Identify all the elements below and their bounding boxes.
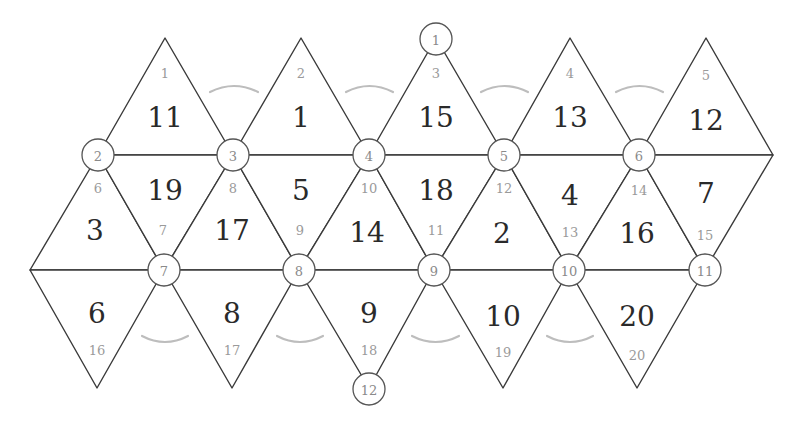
- glue-arc: [346, 86, 393, 92]
- vertex-3: 3: [217, 139, 249, 171]
- face-value-label: 12: [688, 104, 724, 137]
- vertex-8: 8: [283, 254, 315, 286]
- glue-arc: [616, 86, 663, 92]
- vertex-label: 9: [430, 264, 438, 279]
- face-value-label: 17: [214, 214, 250, 247]
- glue-arc: [277, 336, 323, 342]
- vertex-label: 3: [229, 149, 237, 164]
- face-value-label: 8: [223, 297, 241, 330]
- face-value-label: 4: [561, 179, 579, 212]
- face-index-label: 1: [161, 66, 169, 81]
- glue-arc: [210, 86, 258, 92]
- vertex-label: 8: [295, 264, 303, 279]
- face-value-label: 19: [147, 174, 183, 207]
- vertex-label: 12: [361, 383, 378, 398]
- glue-arc: [547, 336, 593, 342]
- face-value-label: 11: [147, 101, 183, 134]
- face-value-label: 3: [86, 214, 104, 247]
- face-value-label: 13: [552, 101, 588, 134]
- face-index-label: 9: [296, 223, 304, 238]
- vertex-label: 1: [432, 33, 440, 48]
- face-value-label: 18: [418, 174, 454, 207]
- face-index-label: 12: [496, 181, 513, 196]
- face-index-label: 10: [361, 181, 378, 196]
- face-index-label: 14: [631, 183, 648, 198]
- face-value-label: 2: [493, 217, 511, 250]
- face-4: [504, 38, 639, 155]
- face-index-label: 11: [428, 223, 445, 238]
- face-value-label: 9: [360, 297, 378, 330]
- vertex-label: 7: [160, 264, 168, 279]
- vertex-5: 5: [488, 139, 520, 171]
- vertex-11: 11: [689, 254, 721, 286]
- vertex-9: 9: [418, 254, 450, 286]
- face-value-label: 5: [292, 174, 310, 207]
- face-value-label: 10: [485, 300, 521, 333]
- face-index-label: 8: [229, 181, 237, 196]
- vertex-label: 10: [561, 264, 578, 279]
- vertex-4: 4: [353, 139, 385, 171]
- vertex-7: 7: [148, 254, 180, 286]
- vertex-label: 2: [94, 149, 102, 164]
- face-value-label: 1: [292, 101, 310, 134]
- face-value-label: 20: [619, 300, 655, 333]
- face-index-label: 2: [297, 66, 305, 81]
- face-value-label: 14: [349, 216, 385, 249]
- glue-arc: [412, 336, 459, 342]
- glue-arc: [142, 336, 188, 342]
- vertex-label: 4: [365, 149, 373, 164]
- face-index-label: 3: [432, 66, 440, 81]
- glue-arc: [481, 86, 528, 92]
- vertex-10: 10: [553, 254, 585, 286]
- face-value-label: 16: [619, 217, 655, 250]
- face-index-label: 17: [224, 343, 241, 358]
- face-value-label: 6: [88, 297, 106, 330]
- face-5: [639, 38, 773, 155]
- face-index-label: 6: [94, 181, 102, 196]
- face-index-label: 7: [159, 223, 167, 238]
- face-1: [98, 38, 233, 155]
- vertex-2: 2: [82, 139, 114, 171]
- face-index-label: 18: [361, 343, 378, 358]
- vertex-12: 12: [353, 373, 385, 405]
- face-index-label: 16: [89, 343, 106, 358]
- vertex-label: 5: [500, 149, 508, 164]
- face-index-label: 15: [697, 228, 714, 243]
- face-index-label: 13: [562, 225, 579, 240]
- face-2: [233, 38, 369, 155]
- vertex-1: 1: [420, 23, 452, 55]
- face-index-label: 20: [629, 348, 646, 363]
- face-index-label: 19: [495, 345, 512, 360]
- vertex-6: 6: [623, 139, 655, 171]
- face-value-label: 7: [697, 177, 715, 210]
- face-value-label: 15: [418, 101, 454, 134]
- vertex-label: 6: [635, 149, 643, 164]
- icosahedron-net: 1111215313412536197178591410181121241316…: [0, 0, 800, 426]
- vertex-label: 11: [697, 264, 714, 279]
- face-index-label: 5: [702, 68, 710, 83]
- face-index-label: 4: [566, 66, 574, 81]
